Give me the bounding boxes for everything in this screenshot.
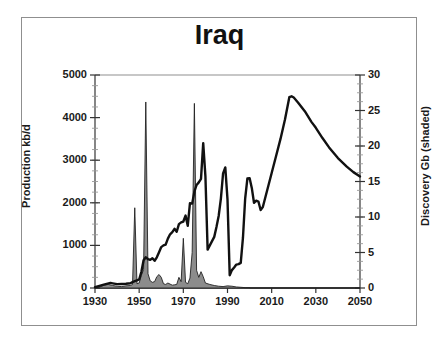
y-axis-left-tick-label: 2000 xyxy=(41,196,87,208)
y-axis-left-tick-label: 4000 xyxy=(41,111,87,123)
x-axis-tick-label: 2030 xyxy=(293,295,339,307)
y-axis-right-tick-label: 30 xyxy=(368,68,402,80)
x-axis-tick-label: 1950 xyxy=(116,295,162,307)
x-axis-tick-label: 1970 xyxy=(160,295,206,307)
x-axis-tick-label: 2010 xyxy=(249,295,295,307)
y-axis-right-tick-label: 15 xyxy=(368,175,402,187)
y-axis-left-tick-label: 0 xyxy=(41,281,87,293)
y-axis-left-tick-label: 1000 xyxy=(41,238,87,250)
y-axis-right-tick-label: 20 xyxy=(368,139,402,151)
y-axis-right-tick-label: 25 xyxy=(368,104,402,116)
y-axis-left-tick-label: 5000 xyxy=(41,68,87,80)
y-axis-right-tick-label: 5 xyxy=(368,246,402,258)
figure-root: Iraq Production kb/d Discovery Gb (shade… xyxy=(0,0,439,340)
y-axis-left-tick-label: 3000 xyxy=(41,153,87,165)
y-axis-right-tick-label: 10 xyxy=(368,210,402,222)
x-axis-tick-label: 1990 xyxy=(205,295,251,307)
x-axis-tick-label: 2050 xyxy=(337,295,383,307)
x-axis-tick-label: 1930 xyxy=(72,295,118,307)
y-axis-right-tick-label: 0 xyxy=(368,281,402,293)
